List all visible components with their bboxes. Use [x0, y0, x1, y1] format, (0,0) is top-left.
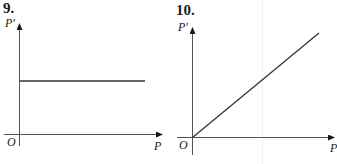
graph-9: 9. P′ O P	[0, 0, 168, 164]
graph-10: 10. P′ O P	[168, 0, 336, 164]
graph-9-plot	[0, 0, 168, 164]
data-line	[193, 33, 320, 138]
graph-10-plot	[168, 0, 336, 164]
